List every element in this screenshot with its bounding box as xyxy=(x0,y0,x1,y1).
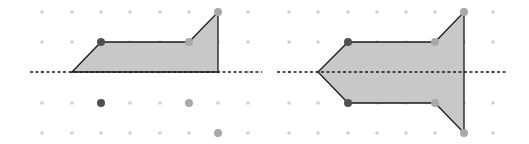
grid-dot xyxy=(70,40,74,44)
grid-dot xyxy=(70,10,74,14)
grid-dot xyxy=(287,10,291,14)
grid-dot xyxy=(491,40,495,44)
grid-dot xyxy=(287,40,291,44)
grid-dot xyxy=(128,10,132,14)
grid-dot xyxy=(316,101,320,105)
vertex-point-light xyxy=(214,129,222,137)
grid-dot xyxy=(128,101,132,105)
grid-dot xyxy=(246,10,250,14)
grid-dot xyxy=(99,10,103,14)
grid-dot xyxy=(158,101,162,105)
vertex-point-dark xyxy=(344,38,352,46)
vertex-point-light xyxy=(431,38,439,46)
vertex-point-light xyxy=(185,99,193,107)
grid-dot xyxy=(246,40,250,44)
grid-dot xyxy=(40,131,44,135)
grid-dot xyxy=(246,101,250,105)
grid-dot xyxy=(70,131,74,135)
grid-dot xyxy=(433,10,437,14)
grid-dot xyxy=(316,10,320,14)
right-panel-reflected-shape xyxy=(277,8,507,137)
vertex-point-dark xyxy=(97,38,105,46)
grid-dot xyxy=(316,40,320,44)
left-panel-original-shape xyxy=(30,8,262,137)
grid-dot xyxy=(404,131,408,135)
shape-polygon xyxy=(72,12,218,72)
grid-dot xyxy=(346,10,350,14)
grid-dot xyxy=(40,40,44,44)
vertex-point-light xyxy=(460,129,468,137)
grid-dot xyxy=(287,131,291,135)
vertex-point-light xyxy=(460,8,468,16)
grid-dot xyxy=(128,131,132,135)
vertex-point-dark xyxy=(97,99,105,107)
grid-dot xyxy=(346,131,350,135)
grid-dot xyxy=(187,10,191,14)
vertex-point-dark xyxy=(344,99,352,107)
vertex-point-light xyxy=(431,99,439,107)
grid-dot xyxy=(187,131,191,135)
grid-dot xyxy=(404,10,408,14)
grid-dot xyxy=(70,101,74,105)
grid-dot xyxy=(40,10,44,14)
grid-dot xyxy=(287,101,291,105)
grid-dot xyxy=(433,131,437,135)
vertex-point-light xyxy=(185,38,193,46)
grid-dot xyxy=(316,131,320,135)
vertex-point-light xyxy=(214,8,222,16)
grid-dot xyxy=(40,101,44,105)
grid-dot xyxy=(158,131,162,135)
grid-dot xyxy=(375,10,379,14)
reflection-diagram xyxy=(0,0,529,144)
grid-dot xyxy=(375,131,379,135)
grid-dot xyxy=(491,131,495,135)
grid-dot xyxy=(99,131,103,135)
grid-dot xyxy=(158,10,162,14)
grid-dot xyxy=(491,101,495,105)
grid-dot xyxy=(491,10,495,14)
grid-dot xyxy=(246,131,250,135)
grid-dot xyxy=(216,101,220,105)
